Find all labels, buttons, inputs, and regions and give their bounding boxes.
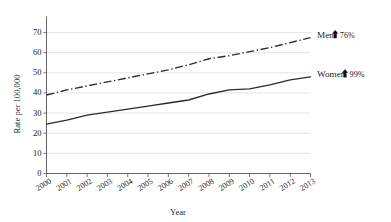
y-tick-label: 70 bbox=[33, 27, 42, 37]
series-line-men bbox=[47, 38, 311, 95]
y-axis-title: Rate per 100,000 bbox=[12, 75, 22, 134]
annotation-value: 76% bbox=[340, 31, 355, 40]
x-tick-label: 2007 bbox=[177, 177, 196, 193]
y-axis-group: 010203040506070 bbox=[33, 17, 47, 178]
x-tick-label: 2010 bbox=[237, 177, 256, 193]
x-tick-label: 2009 bbox=[217, 177, 236, 193]
x-tick-label: 2003 bbox=[95, 177, 114, 193]
annotation-women: Women99% bbox=[317, 69, 365, 79]
annotation-value: 99% bbox=[350, 70, 365, 79]
x-tick-label: 2005 bbox=[136, 177, 155, 193]
line-chart: 010203040506070 200020012002200320042005… bbox=[0, 0, 391, 222]
x-axis-group: 2000200120022003200420052006200720082009… bbox=[34, 174, 317, 193]
y-tick-label: 60 bbox=[33, 47, 42, 57]
annotation-label: Women bbox=[317, 69, 346, 79]
y-tick-label: 0 bbox=[37, 168, 41, 178]
series-line-women bbox=[47, 77, 311, 124]
y-tick-label: 10 bbox=[33, 148, 42, 158]
x-tick-label: 2011 bbox=[258, 177, 276, 193]
series-group bbox=[47, 38, 311, 125]
x-tick-label: 2006 bbox=[156, 177, 175, 193]
x-tick-label: 2000 bbox=[34, 177, 53, 193]
x-tick-label: 2001 bbox=[55, 177, 74, 193]
chart-container: 010203040506070 200020012002200320042005… bbox=[0, 0, 391, 222]
annotations-group: Men76%Women99% bbox=[317, 30, 365, 80]
x-tick-label: 2008 bbox=[197, 177, 216, 193]
x-tick-label: 2004 bbox=[116, 177, 135, 193]
gridlines-group bbox=[47, 33, 311, 154]
y-tick-label: 30 bbox=[33, 108, 42, 118]
y-tick-label: 50 bbox=[33, 67, 42, 77]
y-tick-label: 20 bbox=[33, 128, 42, 138]
x-axis-title: Year bbox=[170, 207, 186, 217]
y-tick-label: 40 bbox=[33, 87, 42, 97]
x-tick-label: 2013 bbox=[298, 177, 317, 193]
annotation-men: Men76% bbox=[317, 30, 355, 40]
annotation-label: Men bbox=[317, 30, 334, 40]
x-tick-label: 2012 bbox=[278, 177, 297, 193]
x-tick-label: 2002 bbox=[75, 177, 94, 193]
